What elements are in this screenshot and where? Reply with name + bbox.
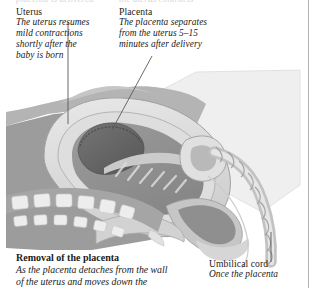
annotation-line: from the uterus 5–15 <box>119 28 207 39</box>
annotation-umbilical-cord-heading: Umbilical cord <box>209 258 278 269</box>
annotation-umbilical-cord: Umbilical cord Once the placenta <box>209 258 278 280</box>
caption-removal-of-the-placenta: Removal of the placenta As the placenta … <box>16 252 167 288</box>
annotation-umbilical-cord-body: Once the placenta <box>209 269 278 280</box>
annotation-line: The placenta separates <box>119 17 207 28</box>
annotation-uterus-heading: Uterus <box>16 6 89 17</box>
page-vertical-rule <box>308 0 309 288</box>
annotation-line: Once the placenta <box>209 269 278 280</box>
annotation-placenta: Placenta The placenta separates from the… <box>119 6 207 50</box>
annotation-placenta-heading: Placenta <box>119 6 207 17</box>
illustration-page: placenta is delivered the uterus contrac… <box>0 0 320 288</box>
caption-heading: Removal of the placenta <box>16 252 167 264</box>
annotation-uterus: Uterus The uterus resumes mild contracti… <box>16 6 89 61</box>
annotation-line: mild contractions <box>16 28 89 39</box>
caption-line: of the uterus and moves down the <box>16 276 167 288</box>
caption-line: As the placenta detaches from the wall <box>16 264 167 276</box>
annotation-line: The uterus resumes <box>16 17 89 28</box>
annotation-line: baby is born <box>16 50 89 61</box>
annotation-line: minutes after delivery <box>119 39 207 50</box>
annotation-uterus-body: The uterus resumes mild contractions sho… <box>16 17 89 61</box>
annotation-line: shortly after the <box>16 39 89 50</box>
annotation-placenta-body: The placenta separates from the uterus 5… <box>119 17 207 50</box>
